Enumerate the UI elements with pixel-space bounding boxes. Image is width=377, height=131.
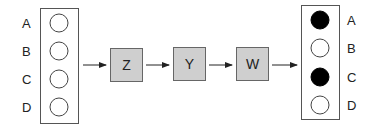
stage-w-label: W [246,56,260,72]
output-label-a: A [347,13,356,28]
input-column: A B C D [22,9,79,124]
input-label-d: D [22,100,31,115]
input-node-a [50,14,68,32]
input-node-c [50,70,68,88]
output-node-a [311,11,329,29]
output-label-d: D [347,98,356,113]
output-label-c: C [347,70,356,85]
output-node-b [311,39,329,57]
output-label-b: B [347,41,356,56]
stage-z: Z [111,49,143,82]
pipeline-diagram: A B C D Z Y W A B C D [0,0,377,131]
stage-z-label: Z [122,57,131,73]
input-label-a: A [22,16,31,31]
input-label-c: C [22,72,31,87]
stage-w: W [237,48,269,81]
stage-y: Y [174,48,206,81]
input-node-b [50,42,68,60]
output-column: A B C D [302,6,357,120]
output-node-c [311,68,329,86]
output-node-d [311,96,329,114]
input-label-b: B [22,44,31,59]
input-node-d [50,98,68,116]
stage-y-label: Y [185,56,195,72]
